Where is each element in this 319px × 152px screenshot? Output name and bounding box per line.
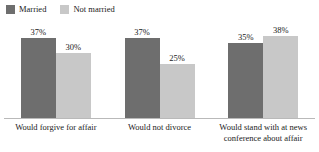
bar-value-not-married-2: 38% xyxy=(263,25,298,35)
bar-not-married-2 xyxy=(263,36,298,118)
grouped-bar-chart: Married Not married 37% 30% 37% xyxy=(0,0,319,152)
bar-group-1: 37% 25% xyxy=(108,22,212,118)
bar-value-married-2: 35% xyxy=(228,32,263,42)
bar-group-2: 35% 38% xyxy=(211,22,315,118)
legend-item-not-married: Not married xyxy=(60,4,114,14)
bar-married-2 xyxy=(228,43,263,118)
category-label-0: Would forgive for affair xyxy=(4,122,108,152)
category-axis-labels: Would forgive for affair Would not divor… xyxy=(4,122,315,152)
legend-label-not-married: Not married xyxy=(73,4,114,14)
bar-value-married-0: 37% xyxy=(21,27,56,37)
bar-slot-married-0: 37% xyxy=(21,22,56,118)
legend-swatch-married xyxy=(6,5,15,14)
bar-married-0 xyxy=(21,38,56,118)
bar-slot-not-married-0: 30% xyxy=(56,22,91,118)
category-label-1: Would not divorce xyxy=(108,122,212,152)
bar-groups: 37% 30% 37% 25% xyxy=(4,22,315,118)
plot-area: 37% 30% 37% 25% xyxy=(0,22,319,119)
bar-slot-married-1: 37% xyxy=(125,22,160,118)
bar-value-not-married-1: 25% xyxy=(160,53,195,63)
bar-slot-not-married-1: 25% xyxy=(160,22,195,118)
chart-legend: Married Not married xyxy=(6,3,115,15)
category-label-2: Would stand with at newsconference about… xyxy=(211,122,315,152)
legend-label-married: Married xyxy=(19,4,46,14)
bar-not-married-1 xyxy=(160,64,195,118)
bar-group-0: 37% 30% xyxy=(4,22,108,118)
legend-item-married: Married xyxy=(6,4,46,14)
axis-baseline xyxy=(4,118,315,119)
bar-not-married-0 xyxy=(56,53,91,118)
bar-married-1 xyxy=(125,38,160,118)
bar-slot-not-married-2: 38% xyxy=(263,22,298,118)
bar-value-married-1: 37% xyxy=(125,27,160,37)
bar-value-not-married-0: 30% xyxy=(56,42,91,52)
bar-slot-married-2: 35% xyxy=(228,22,263,118)
legend-swatch-not-married xyxy=(60,5,69,14)
